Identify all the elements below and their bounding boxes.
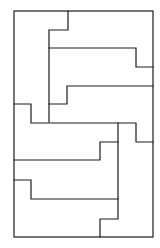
partition-diagram — [0, 0, 160, 248]
top-step-line — [49, 11, 68, 122]
center-divider-line — [14, 104, 153, 142]
right-column-line — [100, 123, 118, 237]
lower-step-line — [14, 142, 118, 160]
bottom-step-line — [14, 180, 118, 199]
outer-border — [14, 11, 153, 237]
mid-step-line — [49, 86, 153, 104]
upper-band-line — [49, 48, 153, 67]
